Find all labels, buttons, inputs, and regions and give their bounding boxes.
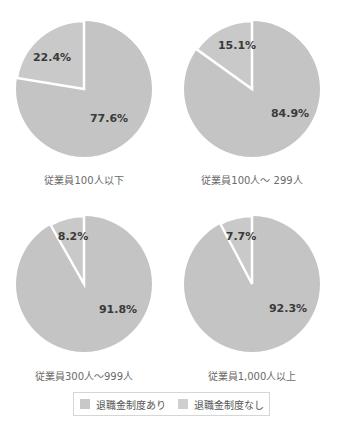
pie-graphic: [168, 195, 336, 365]
slice-label-yes: 92.3%: [269, 302, 307, 315]
legend-label: 退職金制度あり: [96, 397, 166, 412]
pie-chart-100-299: 15.1% 84.9% 従業員100人～ 299人: [168, 0, 336, 195]
pie-chart-1000-plus: 7.7% 92.3% 従業員1,000人以上: [168, 195, 336, 390]
pie-graphic: [0, 0, 168, 170]
pie-graphic: [168, 0, 336, 170]
slice-label-no: 8.2%: [58, 230, 89, 243]
slice-label-yes: 77.6%: [90, 112, 128, 125]
legend-swatch: [80, 399, 90, 409]
pie-caption: 従業員1,000人以上: [168, 368, 336, 383]
pie-chart-300-999: 8.2% 91.8% 従業員300人～999人: [0, 195, 168, 390]
pie-chart-under-100: 22.4% 77.6% 従業員100人以下: [0, 0, 168, 195]
slice-label-yes: 91.8%: [99, 303, 137, 316]
pie-graphic: [0, 195, 168, 365]
legend-swatch: [178, 399, 188, 409]
pie-caption: 従業員100人以下: [0, 172, 168, 187]
pie-caption: 従業員100人～ 299人: [168, 172, 336, 187]
slice-label-yes: 84.9%: [271, 107, 309, 120]
legend-item-no: 退職金制度なし: [178, 397, 264, 412]
slice-label-no: 7.7%: [226, 230, 257, 243]
slice-label-no: 15.1%: [218, 39, 256, 52]
legend-item-yes: 退職金制度あり: [80, 397, 166, 412]
chart-legend: 退職金制度あり 退職金制度なし: [73, 392, 270, 416]
slice-label-no: 22.4%: [33, 51, 71, 64]
legend-label: 退職金制度なし: [194, 397, 264, 412]
pie-caption: 従業員300人～999人: [0, 368, 168, 383]
